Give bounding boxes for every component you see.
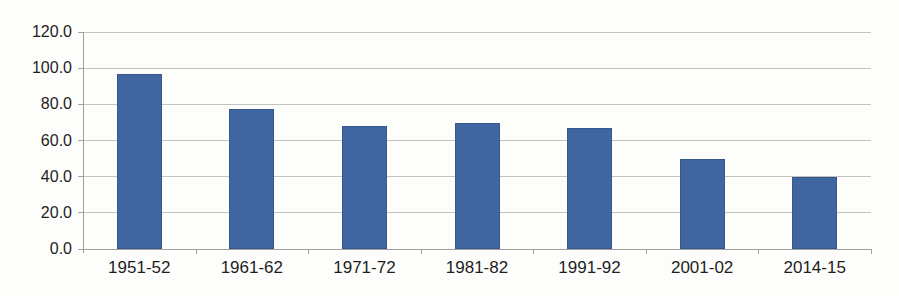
x-axis-label: 1981-82 <box>421 258 534 278</box>
bar <box>342 126 387 249</box>
x-axis-tick <box>758 249 759 254</box>
x-axis-tick <box>196 249 197 254</box>
y-axis-label: 20.0 <box>0 203 72 223</box>
x-axis-line <box>83 249 872 250</box>
y-axis-tick <box>78 32 83 33</box>
x-axis-label: 2001-02 <box>646 258 759 278</box>
y-axis-label: 60.0 <box>0 131 72 151</box>
gridline <box>83 32 871 33</box>
bar <box>455 123 500 249</box>
x-axis-label: 1971-72 <box>308 258 421 278</box>
x-axis-label: 2014-15 <box>758 258 871 278</box>
gridline <box>83 104 871 105</box>
x-axis-tick <box>308 249 309 254</box>
x-axis-label: 1961-62 <box>196 258 309 278</box>
y-axis-tick <box>78 68 83 69</box>
y-axis-label: 0.0 <box>0 239 72 259</box>
y-axis-tick <box>78 249 83 250</box>
y-axis-tick <box>78 176 83 177</box>
x-axis-label: 1951-52 <box>83 258 196 278</box>
bar-chart: 120.0100.080.060.040.020.00.01951-521961… <box>0 0 899 296</box>
bar <box>680 159 725 249</box>
y-axis-label: 120.0 <box>0 22 72 42</box>
x-axis-label: 1991-92 <box>533 258 646 278</box>
gridline <box>83 68 871 69</box>
x-axis-tick <box>421 249 422 254</box>
y-axis-label: 40.0 <box>0 167 72 187</box>
y-axis-tick <box>78 140 83 141</box>
x-axis-tick <box>533 249 534 254</box>
bar <box>229 109 274 249</box>
y-axis-line <box>83 32 84 253</box>
y-axis-label: 100.0 <box>0 58 72 78</box>
bar <box>792 177 837 249</box>
y-axis-tick <box>78 212 83 213</box>
bar <box>567 128 612 249</box>
x-axis-tick <box>646 249 647 254</box>
y-axis-tick <box>78 104 83 105</box>
bar <box>117 74 162 249</box>
y-axis-label: 80.0 <box>0 94 72 114</box>
x-axis-tick <box>871 249 872 254</box>
